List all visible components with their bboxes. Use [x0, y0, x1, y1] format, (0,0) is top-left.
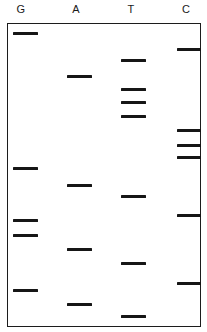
- gel-lane-a: [67, 24, 92, 326]
- gel-band: [177, 144, 201, 147]
- gel-band: [121, 115, 146, 118]
- gel-plate: [7, 23, 201, 327]
- gel-lane-c: [177, 24, 201, 326]
- gel-band: [67, 75, 92, 78]
- lane-label-a: A: [66, 2, 86, 16]
- lane-label-t: T: [121, 2, 141, 16]
- gel-band: [121, 315, 146, 318]
- gel-band: [121, 101, 146, 104]
- gel-band: [121, 59, 146, 62]
- gel-band: [13, 234, 38, 237]
- lane-label-c: C: [176, 2, 196, 16]
- gel-band: [177, 156, 201, 159]
- gel-band: [177, 282, 201, 285]
- dna-sequencing-gel-figure: G A T C: [0, 0, 207, 332]
- gel-band: [13, 289, 38, 292]
- gel-band: [67, 184, 92, 187]
- gel-band: [13, 167, 38, 170]
- gel-lane-g: [13, 24, 38, 326]
- gel-band: [121, 262, 146, 265]
- gel-band: [67, 248, 92, 251]
- gel-band: [13, 219, 38, 222]
- gel-band: [121, 195, 146, 198]
- gel-band: [177, 129, 201, 132]
- lane-label-g: G: [11, 2, 31, 16]
- gel-lane-t: [121, 24, 146, 326]
- gel-band: [67, 303, 92, 306]
- gel-band: [121, 88, 146, 91]
- gel-band: [177, 214, 201, 217]
- gel-band: [177, 48, 201, 51]
- gel-band: [13, 32, 38, 35]
